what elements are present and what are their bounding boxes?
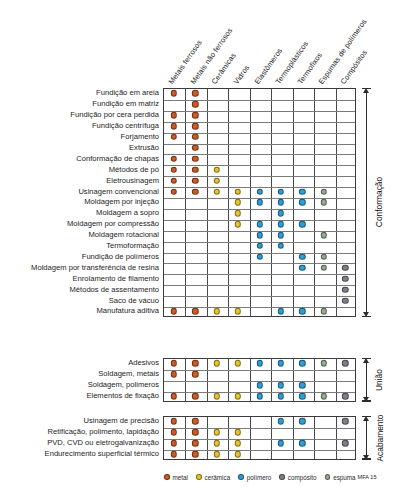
grid-vline (336, 417, 337, 459)
row-label: Elementos de fixação (86, 391, 159, 401)
grid-vline (250, 417, 251, 459)
grid-vline (271, 417, 272, 459)
grid-hline (164, 209, 355, 210)
section-bracket-união (362, 358, 371, 402)
grid-vline (271, 89, 272, 316)
row-label: PVD, CVD ou eletrogalvanização (47, 438, 159, 448)
row-label: Forjamento (121, 132, 159, 142)
row-label: Soldagem, polimeros (88, 380, 159, 390)
grid-vline (228, 89, 229, 316)
row-label: Extrusão (129, 143, 159, 153)
legend-label: metal (173, 474, 188, 481)
row-label: Moldagem por transferência de resina (31, 263, 159, 273)
bracket-shaft (366, 421, 367, 455)
grid-hline (164, 285, 355, 286)
grid-vline (185, 359, 186, 401)
legend-label: espuma (333, 474, 355, 481)
grid-vline (336, 359, 337, 401)
bracket-shaft (366, 93, 367, 312)
column-header-4: Vidros (231, 63, 251, 86)
grid-hline (164, 263, 355, 264)
row-label: Fundição centrífuga (92, 121, 159, 131)
grid-vline (207, 359, 208, 401)
legend-item-polimero: polímero (238, 474, 271, 481)
grid-vline (293, 417, 294, 459)
row-label: Métodos de assentamento (70, 285, 160, 295)
row-label: Fundição em areia (96, 88, 159, 98)
grid-vline (314, 417, 315, 459)
row-label: Enrolamento de filamento (72, 274, 159, 284)
grid-vline (228, 417, 229, 459)
section-bracket-conformação (362, 88, 371, 317)
legend-dot-ceramica (196, 474, 202, 480)
legend-item-ceramica: cerâmica (196, 474, 230, 481)
section-bracket-acabamento (362, 416, 371, 460)
bracket-cap-bottom (362, 316, 371, 317)
legend-item-composito: compósito (279, 474, 316, 481)
row-label: Usinagem de precisão (83, 416, 159, 426)
grid-vline (185, 89, 186, 316)
bracket-shaft (366, 363, 367, 397)
row-label: Conformação de chapas (76, 154, 159, 164)
row-label: Soldagem, metais (98, 369, 159, 379)
grid-vline (293, 359, 294, 401)
grid-vline (228, 359, 229, 401)
row-label: Manufatura aditiva (97, 306, 159, 316)
row-label: Fundição de polímeros (82, 252, 159, 262)
legend-source: MFA 15 (358, 474, 377, 480)
row-label: Moldagem por injeção (84, 197, 159, 207)
legend-item-espuma: espuma (325, 474, 356, 481)
row-label: Endurecimento superficial térmico (45, 449, 159, 459)
row-label: Moldagem por compressão (67, 219, 159, 229)
grid-vline (250, 359, 251, 401)
grid-vline (293, 89, 294, 316)
materials-process-matrix-figure: Metais ferrososMetais não ferrososCerâmi… (0, 0, 395, 487)
grid-vline (207, 417, 208, 459)
section-label-acabamento: Acabamento (374, 414, 384, 461)
row-label: Moldagem rotacional (89, 230, 160, 240)
grid-vline (250, 89, 251, 316)
grid-vline (336, 89, 337, 316)
bracket-cap-bottom (362, 458, 371, 459)
row-label: Eletrousinagem (106, 176, 159, 186)
grid-vline (207, 89, 208, 316)
grid-vline (314, 359, 315, 401)
section-label-união: União (374, 369, 384, 391)
grid-hline (164, 274, 355, 275)
row-label: Fundição em matriz (92, 99, 159, 109)
grid-vline (314, 89, 315, 316)
row-label: Saco de vácuo (109, 296, 159, 306)
row-label: Moldagem a sopro (96, 208, 159, 218)
legend-dot-espuma (325, 474, 331, 480)
row-label: Usinagem convencional (78, 187, 159, 197)
legend-label: polímero (247, 474, 272, 481)
row-label: Adesivos (128, 358, 159, 368)
legend-item-metal: metal (164, 474, 188, 481)
row-label: Métodos de pó (109, 165, 159, 175)
grid-vline (271, 359, 272, 401)
row-label: Termoformação (106, 241, 159, 251)
legend-dot-polimero (238, 474, 244, 480)
legend-dot-metal (164, 474, 170, 480)
grid-hline (164, 296, 355, 297)
row-label: Retificação, polimento, lapidação (48, 427, 159, 437)
row-label: Fundição por cera perdida (70, 110, 159, 120)
grid-vline (185, 417, 186, 459)
legend-label: compósito (288, 474, 317, 481)
column-header-band: Metais ferrososMetais não ferrososCerâmi… (0, 0, 395, 86)
legend-label: cerâmica (205, 474, 231, 481)
bracket-cap-bottom (362, 400, 371, 401)
section-label-conformação: Conformação (374, 177, 384, 227)
legend: metalcerâmicapolímerocompósitoespumaMFA … (164, 471, 377, 483)
legend-dot-composito (279, 474, 285, 480)
